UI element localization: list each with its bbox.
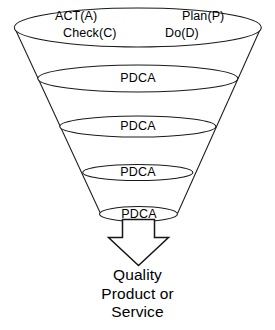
label-do: Do(D): [165, 27, 199, 40]
outcome-line-2: Product or: [0, 285, 275, 304]
stage-label-4: PDCA: [121, 208, 157, 221]
outcome-line-3: Service: [0, 303, 275, 322]
label-check: Check(C): [63, 27, 117, 40]
stage-label-2: PDCA: [120, 120, 156, 133]
outcome-text-block: Quality Product or Service: [0, 266, 275, 322]
stage-label-1: PDCA: [120, 72, 156, 85]
stage-label-3: PDCA: [120, 166, 156, 179]
down-arrow-icon: [109, 220, 169, 266]
label-plan: Plan(P): [182, 10, 224, 23]
label-act: ACT(A): [55, 10, 97, 23]
pdca-funnel-diagram: ACT(A) Check(C) Plan(P) Do(D) PDCA PDCA …: [0, 0, 275, 330]
outcome-line-1: Quality: [0, 266, 275, 285]
